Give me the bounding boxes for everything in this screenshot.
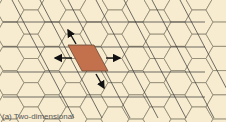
hex-cells xyxy=(0,0,226,122)
hexagonal-lattice-diagram xyxy=(0,0,226,122)
figure-caption: (a) Two-dimensional xyxy=(2,112,74,121)
